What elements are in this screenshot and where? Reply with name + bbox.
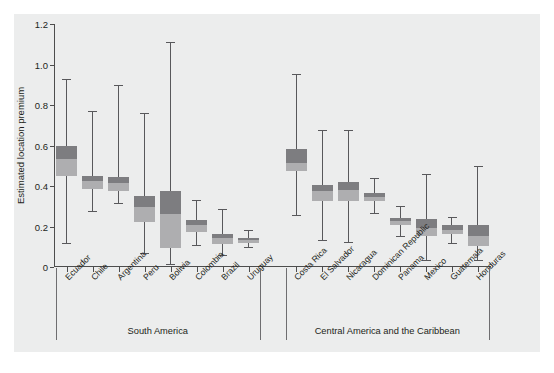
whisker-cap-lower	[192, 245, 201, 246]
box-plot-item[interactable]	[338, 24, 359, 267]
whisker-cap-upper	[114, 85, 123, 86]
whisker-cap-lower	[62, 243, 71, 244]
box-lower-quartile	[442, 230, 463, 234]
box-lower-quartile	[468, 236, 489, 246]
box-lower-quartile	[134, 207, 155, 222]
box-lower-quartile	[186, 225, 207, 231]
box-upper-quartile	[286, 149, 307, 163]
whisker-cap-upper	[344, 130, 353, 131]
whisker-cap-lower	[344, 242, 353, 243]
y-axis-tick-label: 1.2	[35, 19, 48, 30]
whisker-cap-upper	[140, 113, 149, 114]
whisker-cap-upper	[422, 174, 431, 175]
y-axis-title: Estimated location premium	[14, 24, 28, 267]
box-plot-item[interactable]	[212, 24, 233, 267]
y-axis-tick	[50, 227, 54, 228]
box-plot-item[interactable]	[134, 24, 155, 267]
whisker-line	[144, 113, 145, 253]
box-lower-quartile	[364, 197, 385, 201]
box-upper-quartile	[160, 191, 181, 214]
box-lower-quartile	[82, 181, 103, 189]
whisker-cap-upper	[244, 230, 253, 231]
box-plot-item[interactable]	[312, 24, 333, 267]
box-lower-quartile	[338, 190, 359, 201]
y-axis-tick-label: 0.6	[35, 140, 48, 151]
y-axis-tick-label: 0.4	[35, 181, 48, 192]
whisker-cap-lower	[448, 243, 457, 244]
box-lower-quartile	[108, 183, 129, 191]
group-bracket-tick	[260, 268, 261, 340]
group-label: South America	[128, 326, 188, 336]
y-axis-tick-label: 1.0	[35, 59, 48, 70]
box-lower-quartile	[56, 159, 77, 176]
box-lower-quartile	[160, 214, 181, 247]
whisker-cap-lower	[166, 264, 175, 265]
whisker-cap-upper	[166, 42, 175, 43]
box-lower-quartile	[286, 163, 307, 171]
whisker-cap-lower	[292, 215, 301, 216]
box-upper-quartile	[338, 182, 359, 190]
whisker-cap-upper	[396, 206, 405, 207]
whisker-cap-upper	[448, 217, 457, 218]
whisker-line	[426, 174, 427, 260]
box-upper-quartile	[468, 225, 489, 235]
box-lower-quartile	[390, 221, 411, 225]
box-plot-item[interactable]	[364, 24, 385, 267]
whisker-cap-upper	[88, 111, 97, 112]
y-axis-title-text: Estimated location premium	[16, 87, 27, 204]
whisker-cap-upper	[474, 166, 483, 167]
whisker-cap-upper	[62, 79, 71, 80]
group-bracket-tick	[286, 268, 287, 340]
y-axis-tick	[50, 24, 54, 25]
group-bracket-tick	[56, 268, 57, 340]
whisker-line	[222, 209, 223, 255]
y-axis-tick-label: 0	[43, 262, 48, 273]
box-plot-item[interactable]	[186, 24, 207, 267]
box-upper-quartile	[134, 196, 155, 207]
box-plot-item[interactable]	[442, 24, 463, 267]
group-bracket-tick	[489, 268, 490, 340]
y-axis-tick	[50, 146, 54, 147]
whisker-cap-upper	[370, 178, 379, 179]
box-lower-quartile	[212, 238, 233, 244]
y-axis-tick	[50, 65, 54, 66]
whisker-cap-lower	[370, 213, 379, 214]
y-axis-tick	[50, 186, 54, 187]
box-plot-item[interactable]	[108, 24, 129, 267]
whisker-cap-lower	[318, 240, 327, 241]
box-lower-quartile	[312, 191, 333, 201]
whisker-cap-lower	[114, 203, 123, 204]
box-plot-item[interactable]	[82, 24, 103, 267]
box-plot-item[interactable]	[238, 24, 259, 267]
chart-figure: Estimated location premium 00.20.40.60.8…	[0, 0, 554, 373]
box-lower-quartile	[238, 240, 259, 242]
whisker-cap-upper	[292, 74, 301, 75]
box-plot-item[interactable]	[56, 24, 77, 267]
y-axis-tick	[50, 105, 54, 106]
group-label: Central America and the Caribbean	[315, 326, 460, 336]
whisker-cap-lower	[396, 236, 405, 237]
whisker-cap-upper	[218, 209, 227, 210]
y-axis-tick-label: 0.8	[35, 100, 48, 111]
box-plot-item[interactable]	[160, 24, 181, 267]
whisker-cap-lower	[244, 247, 253, 248]
y-axis-tick	[50, 267, 54, 268]
box-upper-quartile	[56, 146, 77, 159]
box-plot-item[interactable]	[390, 24, 411, 267]
box-plot-item[interactable]	[286, 24, 307, 267]
whisker-cap-upper	[318, 130, 327, 131]
whisker-cap-lower	[88, 211, 97, 212]
whisker-line	[296, 74, 297, 216]
y-axis-tick-label: 0.2	[35, 221, 48, 232]
whisker-line	[92, 111, 93, 211]
box-plot-item[interactable]	[468, 24, 489, 267]
whisker-cap-upper	[192, 200, 201, 201]
